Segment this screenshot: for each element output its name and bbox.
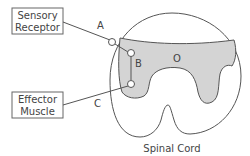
- effector-line2: Muscle: [20, 106, 55, 117]
- label-c: C: [94, 98, 101, 109]
- sensory-line1: Sensory: [17, 10, 57, 21]
- label-a: A: [97, 20, 104, 31]
- sensory-node: [109, 39, 116, 46]
- label-b: B: [135, 58, 142, 69]
- relay-node-bottom: [128, 81, 135, 88]
- label-o: O: [173, 53, 181, 64]
- sensory-line2: Receptor: [15, 22, 61, 33]
- spinal-cord-caption: Spinal Cord: [143, 143, 200, 154]
- relay-node-top: [128, 50, 135, 57]
- effector-line1: Effector: [18, 94, 58, 105]
- reflex-arc-diagram: Sensory Receptor Effector Muscle A B C O…: [0, 0, 250, 156]
